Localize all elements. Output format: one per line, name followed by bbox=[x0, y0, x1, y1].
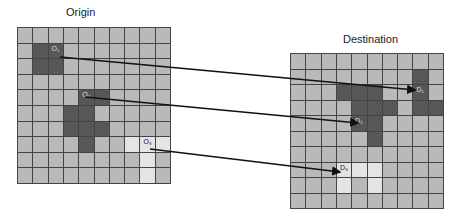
arrow-line bbox=[150, 149, 340, 172]
arrow-line bbox=[60, 57, 415, 90]
flow-arrows bbox=[0, 0, 462, 220]
arrow-line bbox=[85, 97, 358, 123]
